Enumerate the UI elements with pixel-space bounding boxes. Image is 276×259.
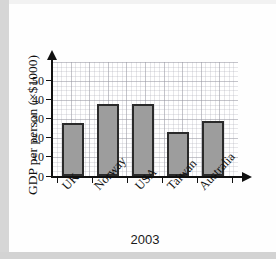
- bar-uk[interactable]: [62, 123, 84, 176]
- y-tick-mark: [46, 118, 52, 119]
- x-tick-mark: [127, 177, 128, 183]
- y-tick-mark: [46, 137, 52, 138]
- scanned-page: 0 10 20 30 40 50 UK Norway USA Taiwan Au…: [0, 0, 276, 259]
- y-tick-mark: [46, 80, 52, 81]
- y-axis-arrow-icon: [47, 50, 57, 60]
- x-tick-mark: [232, 177, 233, 183]
- y-tick-mark: [46, 176, 52, 177]
- x-tick-mark: [162, 177, 163, 183]
- y-tick-mark: [46, 156, 52, 157]
- bar-chart: 0 10 20 30 40 50 UK Norway USA Taiwan Au…: [0, 0, 276, 259]
- bar-usa[interactable]: [132, 104, 154, 176]
- x-axis-title: 2003: [52, 232, 238, 247]
- x-tick-mark: [57, 177, 58, 183]
- y-tick-mark: [46, 99, 52, 100]
- y-axis-title: GDP per person (×$1000): [25, 45, 41, 205]
- x-axis-arrow-icon: [242, 172, 252, 182]
